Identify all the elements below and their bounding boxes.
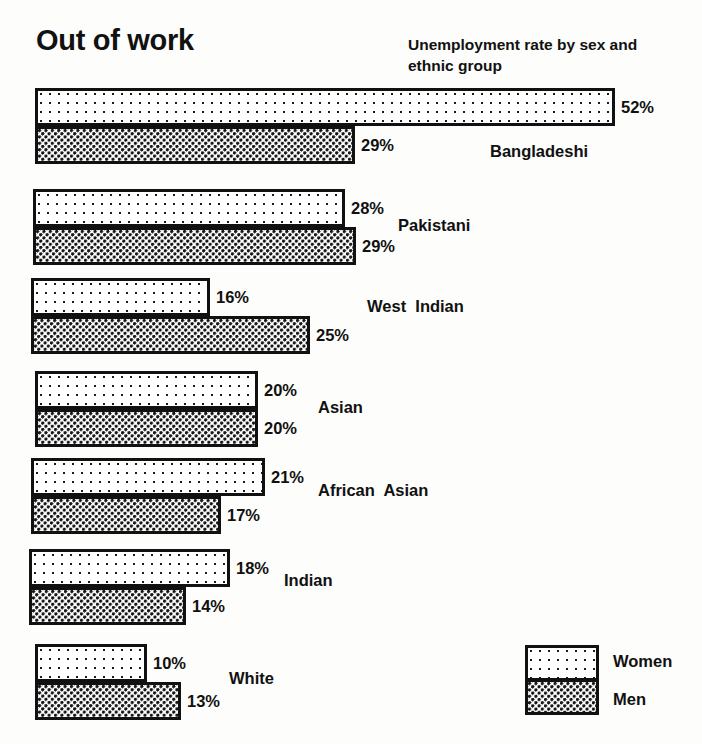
bar-value-label-women: 16% [216,278,249,316]
bar-men [31,496,221,534]
bar-men [35,409,258,447]
bar-women [29,549,230,587]
chart-page: Out of work Unemployment rate by sex and… [0,0,702,744]
category-label: Asian [318,398,363,417]
category-label: West Indian [367,297,464,316]
bar-value-label-men: 17% [227,496,260,534]
bar-chart-plot-area: 52%29%Bangladeshi28%29%Pakistani16%25%We… [0,0,702,744]
category-label: Bangladeshi [490,142,588,161]
category-label: African Asian [318,481,428,500]
bar-women [31,458,265,496]
category-label: White [229,669,274,688]
bar-men [29,587,186,625]
bar-value-label-women: 21% [271,458,304,496]
bar-value-label-women: 52% [621,88,654,126]
bar-men [35,682,181,720]
legend-swatch-men [525,680,599,715]
bar-men [33,227,356,265]
category-label: Pakistani [398,216,470,235]
bar-men [35,126,355,164]
bar-women [35,644,147,682]
bar-women [35,88,615,126]
bar-value-label-men: 29% [362,227,395,265]
bar-value-label-women: 18% [236,549,269,587]
legend-label-women: Women [613,652,672,671]
bar-value-label-women: 20% [264,371,297,409]
bar-women [35,371,258,409]
bar-value-label-women: 10% [153,644,186,682]
bar-value-label-men: 29% [361,126,394,164]
legend-label-men: Men [613,690,646,709]
bar-men [31,316,310,354]
bar-value-label-women: 28% [351,189,384,227]
bar-value-label-men: 13% [187,682,220,720]
bar-value-label-men: 25% [316,316,349,354]
bar-value-label-men: 14% [192,587,225,625]
bar-women [31,278,210,316]
bar-women [33,189,345,227]
category-label: Indian [284,571,333,590]
legend-swatch-women [525,645,599,680]
bar-value-label-men: 20% [264,409,297,447]
